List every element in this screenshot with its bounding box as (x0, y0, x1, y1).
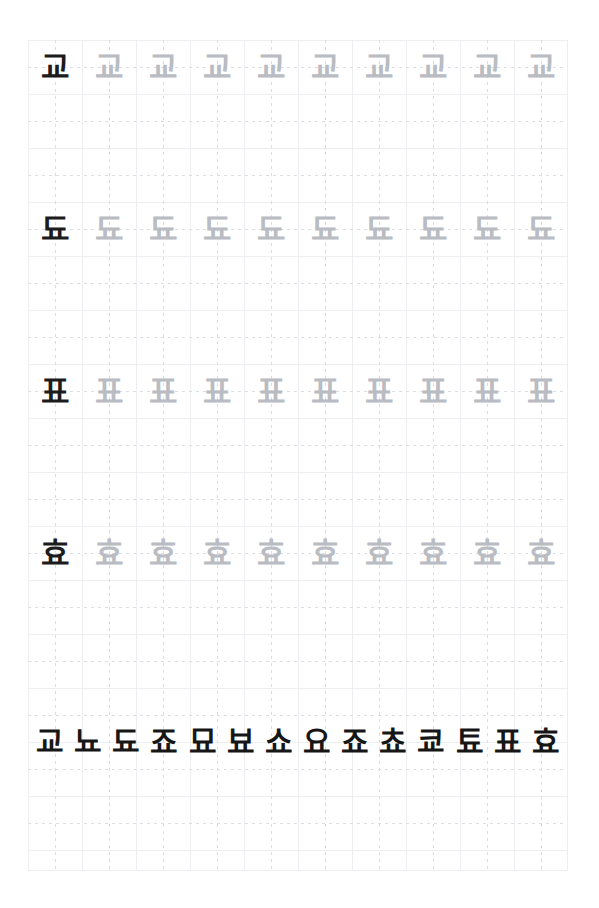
summary-char: 쇼 (261, 727, 297, 757)
practice-trace-char: 됴 (244, 202, 298, 256)
summary-char: 뇨 (70, 727, 106, 757)
sheet-bottom-edge (28, 870, 568, 871)
practice-trace-char: 효 (82, 526, 136, 580)
guide-dash-h (28, 661, 568, 662)
practice-trace-char: 교 (514, 40, 568, 94)
summary-char: 묘 (185, 727, 221, 757)
summary-row: 교 뇨 됴 죠 묘 뵤 쇼 요 죠 쵸 쿄 툐 표 효 (28, 715, 568, 769)
practice-trace-char: 됴 (82, 202, 136, 256)
practice-model-char: 효 (28, 526, 82, 580)
practice-trace-char: 표 (352, 364, 406, 418)
guide-dash-h (28, 823, 568, 824)
practice-trace-char: 됴 (406, 202, 460, 256)
practice-trace-char: 표 (190, 364, 244, 418)
practice-trace-char: 교 (136, 40, 190, 94)
practice-trace-char: 효 (460, 526, 514, 580)
summary-char: 뵤 (223, 727, 259, 757)
summary-char: 효 (528, 727, 564, 757)
practice-trace-char: 됴 (190, 202, 244, 256)
practice-trace-char: 효 (406, 526, 460, 580)
practice-trace-char: 교 (298, 40, 352, 94)
summary-char: 쿄 (413, 727, 449, 757)
summary-char: 교 (32, 727, 68, 757)
practice-model-char: 표 (28, 364, 82, 418)
practice-trace-char: 교 (406, 40, 460, 94)
practice-trace-char: 됴 (514, 202, 568, 256)
practice-trace-char: 표 (460, 364, 514, 418)
practice-trace-char: 교 (352, 40, 406, 94)
practice-trace-char: 교 (460, 40, 514, 94)
guide-dash-h (28, 337, 568, 338)
guide-dash-h (28, 283, 568, 284)
guide-dash-h (28, 175, 568, 176)
practice-trace-char: 표 (82, 364, 136, 418)
practice-trace-char: 효 (514, 526, 568, 580)
practice-trace-char: 표 (514, 364, 568, 418)
summary-char: 요 (299, 727, 335, 757)
practice-trace-char: 표 (136, 364, 190, 418)
worksheet-sheet: 교 교 교 교 교 교 교 교 교 교 됴 됴 됴 됴 됴 됴 됴 됴 됴 됴 … (28, 40, 568, 871)
practice-trace-char: 효 (190, 526, 244, 580)
summary-char: 툐 (452, 727, 488, 757)
practice-trace-char: 효 (298, 526, 352, 580)
guide-dash-h (28, 499, 568, 500)
summary-char: 죠 (146, 727, 182, 757)
practice-trace-char: 표 (406, 364, 460, 418)
practice-model-char: 교 (28, 40, 82, 94)
practice-trace-char: 교 (244, 40, 298, 94)
practice-trace-char: 됴 (298, 202, 352, 256)
summary-char: 쵸 (375, 727, 411, 757)
practice-model-char: 됴 (28, 202, 82, 256)
guide-dash-h (28, 607, 568, 608)
practice-trace-char: 교 (190, 40, 244, 94)
practice-trace-char: 됴 (136, 202, 190, 256)
practice-trace-char: 됴 (460, 202, 514, 256)
practice-trace-char: 효 (352, 526, 406, 580)
practice-trace-char: 효 (136, 526, 190, 580)
practice-trace-char: 표 (244, 364, 298, 418)
practice-trace-char: 교 (82, 40, 136, 94)
guide-dash-h (28, 445, 568, 446)
summary-char: 죠 (337, 727, 373, 757)
summary-char: 됴 (108, 727, 144, 757)
practice-trace-char: 됴 (352, 202, 406, 256)
summary-char: 표 (490, 727, 526, 757)
practice-trace-char: 표 (298, 364, 352, 418)
practice-trace-char: 효 (244, 526, 298, 580)
guide-dash-h (28, 121, 568, 122)
guide-dash-h (28, 769, 568, 770)
